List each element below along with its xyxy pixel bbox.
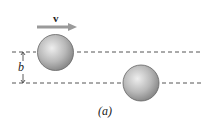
velocity-label: v bbox=[53, 12, 59, 24]
velocity-arrow bbox=[37, 23, 77, 31]
figure-caption: (a) bbox=[98, 104, 112, 119]
impact-parameter-label: b bbox=[18, 60, 24, 75]
moving-sphere bbox=[38, 35, 74, 71]
target-sphere bbox=[123, 65, 159, 101]
